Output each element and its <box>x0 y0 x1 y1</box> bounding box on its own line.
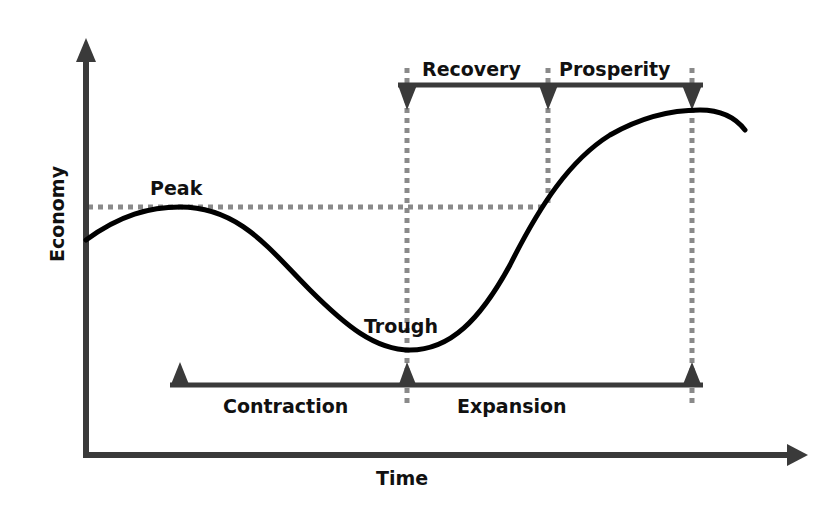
contraction-label: Contraction <box>223 395 348 417</box>
peak-label: Peak <box>150 177 203 199</box>
bottom-phase-bracket <box>170 362 703 387</box>
recovery-label: Recovery <box>422 58 521 80</box>
x-axis-arrow-icon <box>787 444 808 466</box>
up-arrow-icon <box>682 362 702 387</box>
x-axis-label: Time <box>376 467 428 489</box>
down-arrow-icon <box>398 85 417 110</box>
up-arrow-icon <box>398 362 417 387</box>
up-arrow-icon <box>170 362 190 387</box>
economy-curve <box>86 110 745 350</box>
guide-lines <box>88 68 692 405</box>
prosperity-label: Prosperity <box>559 58 671 80</box>
trough-label: Trough <box>364 315 438 337</box>
top-phase-bracket <box>398 85 703 110</box>
axes <box>76 38 808 466</box>
y-axis-arrow-icon <box>76 38 96 62</box>
down-arrow-icon <box>539 85 558 110</box>
y-axis-label: Economy <box>46 165 68 262</box>
down-arrow-icon <box>682 85 702 110</box>
business-cycle-diagram: Peak Trough Recovery Prosperity Contract… <box>0 0 838 511</box>
expansion-label: Expansion <box>457 395 567 417</box>
